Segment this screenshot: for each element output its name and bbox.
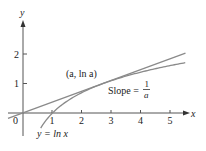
- y-tick-label-2: 2: [14, 49, 19, 60]
- slope-label: Slope =: [108, 85, 139, 96]
- x-tick-label-1: 1: [50, 115, 55, 126]
- x-axis-label: x: [190, 108, 196, 119]
- curve-label: y = ln x: [36, 128, 68, 139]
- x-tick-label-4: 4: [138, 115, 143, 126]
- x-axis-arrow-icon: [183, 111, 190, 116]
- y-ticks: [23, 54, 27, 84]
- origin-label: 0: [13, 115, 18, 126]
- x-tick-label-2: 2: [79, 115, 84, 126]
- y-axis-label: y: [19, 7, 25, 18]
- slope-denominator: a: [144, 90, 149, 100]
- y-axis-arrow-icon: [21, 20, 26, 27]
- tangent-line-diagram: y x 0 1 2 3 4 5 1 2 (a, ln a) Slope = 1 …: [0, 0, 206, 151]
- x-tick-label-5: 5: [168, 115, 173, 126]
- x-tick-label-3: 3: [109, 115, 114, 126]
- axes: [8, 25, 186, 136]
- y-tick-label-1: 1: [14, 78, 19, 89]
- point-label: (a, ln a): [66, 68, 97, 80]
- slope-numerator: 1: [145, 79, 150, 89]
